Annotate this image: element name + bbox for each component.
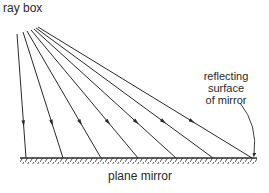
arrow-icon [189,118,195,123]
arrow-icon [49,119,53,126]
reflecting-surface-label: reflecting surface of mirror [190,70,262,106]
plane-mirror [20,158,257,164]
arrow-icon [77,119,82,126]
light-ray [17,34,26,158]
plane-mirror-label: plane mirror [108,170,172,182]
reflecting-label-line1: reflecting [190,70,262,82]
light-ray [23,32,63,158]
reflecting-label-line3: of mirror [190,94,262,106]
light-ray [31,30,138,158]
pointer-arrow [240,103,255,155]
reflecting-label-line2: surface [190,82,262,94]
ray-box-label: ray box [3,2,42,14]
light-ray [27,31,101,158]
light-ray [34,29,176,158]
